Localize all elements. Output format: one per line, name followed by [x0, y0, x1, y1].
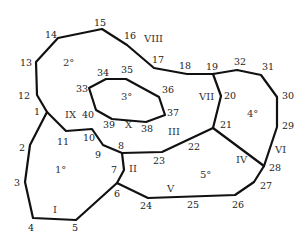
vertex-label-3: 3 — [14, 177, 20, 188]
region-label-II: II — [129, 163, 137, 174]
region-label-VII: VII — [198, 91, 214, 102]
vertex-label-33: 33 — [76, 83, 88, 94]
vertex-label-40: 40 — [82, 109, 94, 120]
vertex-label-13: 13 — [20, 57, 32, 68]
vertex-label-31: 31 — [262, 61, 274, 72]
region-label-IV: IV — [236, 154, 248, 165]
vertex-label-22: 22 — [188, 141, 200, 152]
vertex-labels: 1234567891011121314151617181920212223242… — [14, 17, 294, 233]
vertex-label-18: 18 — [179, 60, 191, 71]
vertex-label-27: 27 — [260, 180, 272, 191]
vertex-label-6: 6 — [114, 188, 120, 199]
diagram-canvas: 1234567891011121314151617181920212223242… — [0, 0, 308, 240]
face-label-1: 1° — [55, 164, 66, 175]
vertex-label-21: 21 — [220, 119, 232, 130]
vertex-label-23: 23 — [153, 155, 165, 166]
region-labels: IIIIIIIVVVIVIIVIIIIXX — [53, 33, 286, 215]
vertex-label-9: 9 — [95, 149, 101, 160]
vertex-label-17: 17 — [152, 54, 164, 65]
vertex-label-39: 39 — [103, 119, 115, 130]
vertex-label-32: 32 — [234, 56, 246, 67]
vertex-label-10: 10 — [83, 132, 95, 143]
vertex-label-25: 25 — [187, 199, 199, 210]
vertex-label-30: 30 — [282, 90, 294, 101]
vertex-label-11: 11 — [57, 136, 69, 147]
vertex-label-24: 24 — [140, 200, 152, 211]
vertex-label-36: 36 — [162, 84, 174, 95]
vertex-label-4: 4 — [28, 222, 34, 233]
vertex-label-15: 15 — [94, 17, 106, 28]
vertex-label-35: 35 — [121, 64, 133, 75]
region-label-III: III — [168, 126, 180, 137]
vertex-label-1: 1 — [34, 106, 40, 117]
vertex-label-8: 8 — [118, 140, 124, 151]
vertex-label-14: 14 — [45, 29, 57, 40]
vertex-label-16: 16 — [124, 30, 136, 41]
vertex-label-20: 20 — [224, 90, 236, 101]
vertex-label-34: 34 — [97, 67, 109, 78]
vertex-label-12: 12 — [18, 90, 30, 101]
face-label-2: 2° — [63, 57, 74, 68]
vertex-label-37: 37 — [167, 107, 179, 118]
vertex-label-26: 26 — [232, 199, 244, 210]
region-label-IX: IX — [65, 109, 77, 120]
region-label-X: X — [125, 119, 133, 130]
region-label-VI: VI — [274, 144, 286, 155]
vertex-label-29: 29 — [282, 120, 294, 131]
face-label-4: 4° — [247, 108, 258, 119]
region-label-VIII: VIII — [143, 33, 163, 44]
face-label-5: 5° — [200, 169, 211, 180]
vertex-label-7: 7 — [111, 164, 117, 175]
vertex-label-28: 28 — [269, 162, 281, 173]
vertex-label-2: 2 — [19, 142, 25, 153]
face-label-3: 3° — [121, 91, 132, 102]
vertex-label-5: 5 — [72, 222, 78, 233]
region-label-V: V — [166, 183, 175, 194]
vertex-label-19: 19 — [206, 61, 218, 72]
vertex-label-38: 38 — [141, 123, 153, 134]
region-label-I: I — [53, 204, 57, 215]
